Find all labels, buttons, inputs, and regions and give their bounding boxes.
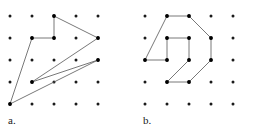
- panel-b-vertex-dots: [143, 14, 213, 84]
- panel-b: b.: [143, 14, 235, 126]
- grid-dot: [75, 59, 78, 62]
- panel-b-label: b.: [143, 114, 152, 126]
- polygon-vertex: [187, 36, 191, 40]
- grid-dot: [75, 15, 78, 18]
- grid-dot: [97, 15, 100, 18]
- polygon-vertex: [52, 36, 56, 40]
- grid-dot: [31, 15, 34, 18]
- polygon-vertex: [187, 58, 191, 62]
- dot-grid-figure-canvas: a. b.: [0, 0, 258, 133]
- grid-dot: [144, 81, 147, 84]
- grid-dot: [31, 59, 34, 62]
- polygon-vertex: [187, 14, 191, 18]
- grid-dot: [31, 103, 34, 106]
- polygon-vertex: [209, 36, 213, 40]
- grid-dot: [144, 103, 147, 106]
- polygon-vertex: [187, 80, 191, 84]
- grid-dot: [97, 81, 100, 84]
- grid-dot: [210, 15, 213, 18]
- grid-dot: [166, 103, 169, 106]
- polygon-vertex: [209, 58, 213, 62]
- grid-dot: [53, 59, 56, 62]
- polygon-vertex: [96, 36, 100, 40]
- grid-dot: [232, 37, 235, 40]
- panel-b-polygon: [145, 16, 211, 82]
- polygon-vertex: [96, 58, 100, 62]
- grid-dot: [9, 81, 12, 84]
- polygon-vertex: [165, 14, 169, 18]
- polygon-vertex: [30, 36, 34, 40]
- grid-dot: [9, 37, 12, 40]
- grid-dot: [210, 103, 213, 106]
- grid-dot: [9, 15, 12, 18]
- grid-dot: [232, 15, 235, 18]
- grid-dot: [75, 37, 78, 40]
- polygon-vertex: [165, 80, 169, 84]
- grid-dot: [188, 103, 191, 106]
- polygon-vertex: [165, 36, 169, 40]
- figure-board: a. b.: [0, 0, 258, 133]
- grid-dot: [232, 59, 235, 62]
- polygon-vertex: [8, 102, 12, 106]
- polygon-vertex: [165, 58, 169, 62]
- grid-dot: [210, 81, 213, 84]
- polygon-vertex: [143, 58, 147, 62]
- grid-dot: [75, 81, 78, 84]
- grid-dot: [53, 103, 56, 106]
- grid-dot: [97, 103, 100, 106]
- grid-dot: [144, 37, 147, 40]
- grid-dot: [232, 81, 235, 84]
- polygon-vertex: [52, 14, 56, 18]
- panel-a-label: a.: [8, 114, 16, 126]
- grid-dot: [75, 103, 78, 106]
- grid-dot: [144, 15, 147, 18]
- grid-dot: [9, 59, 12, 62]
- grid-dot: [232, 103, 235, 106]
- panel-a: a.: [8, 14, 100, 126]
- polygon-vertex: [30, 80, 34, 84]
